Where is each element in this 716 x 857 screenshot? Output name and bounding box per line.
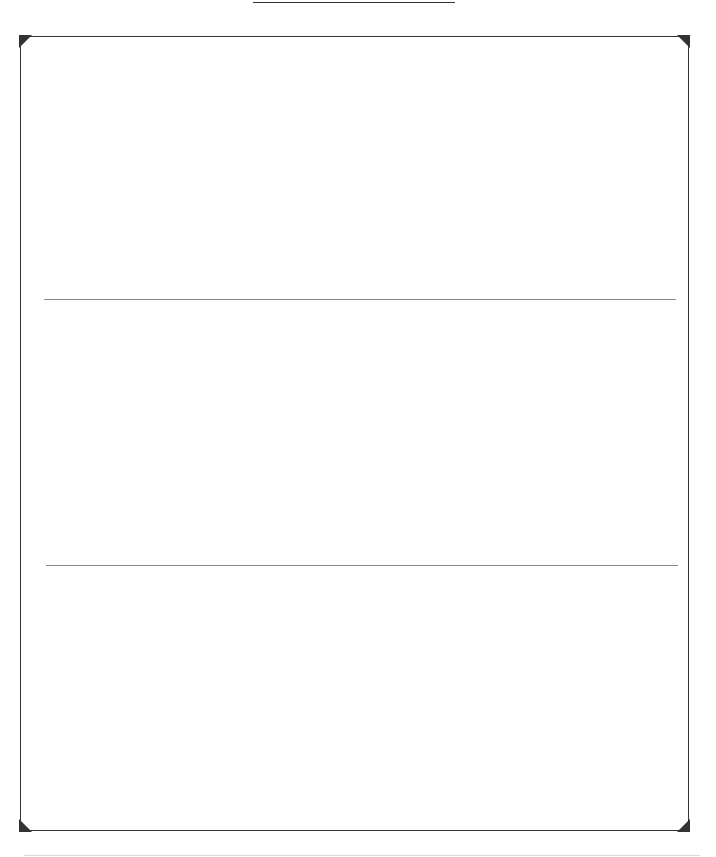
panel-middle	[21, 300, 688, 565]
card-frame	[20, 36, 689, 831]
panel-bottom	[21, 566, 688, 831]
panel-top	[21, 37, 688, 299]
top-rule-line	[253, 2, 455, 3]
bottom-rule-line	[24, 855, 700, 856]
